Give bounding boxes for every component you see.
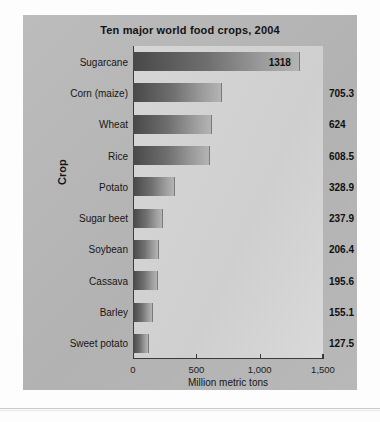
x-axis-tick bbox=[133, 354, 134, 359]
category-label: Sugarcane bbox=[80, 56, 128, 67]
bar-value-label: 155.1 bbox=[329, 307, 354, 318]
category-label: Potato bbox=[99, 181, 128, 192]
x-axis-tick-label: 1,000 bbox=[248, 364, 272, 375]
chart-figure: Ten major world food crops, 2004 Crop 05… bbox=[0, 0, 380, 422]
x-axis-tick-label: 500 bbox=[188, 364, 204, 375]
bar-row[interactable]: Corn (maize)705.3 bbox=[133, 83, 323, 102]
bar[interactable] bbox=[133, 334, 149, 353]
page-divider bbox=[0, 408, 380, 409]
category-label: Rice bbox=[108, 150, 128, 161]
bar-value-label: 705.3 bbox=[329, 87, 354, 98]
bar-value-label: 328.9 bbox=[329, 181, 354, 192]
bar[interactable] bbox=[133, 146, 210, 165]
bar-row[interactable]: Cassava195.6 bbox=[133, 271, 323, 290]
page-divider-shadow bbox=[0, 410, 380, 411]
category-label: Barley bbox=[100, 307, 128, 318]
bar[interactable] bbox=[133, 115, 212, 134]
category-label: Sugar beet bbox=[79, 213, 128, 224]
chart-title: Ten major world food crops, 2004 bbox=[23, 24, 357, 36]
bar-value-label: 1318 bbox=[269, 56, 291, 67]
bar-value-label: 237.9 bbox=[329, 213, 354, 224]
bar[interactable] bbox=[133, 271, 158, 290]
category-label: Soybean bbox=[89, 244, 128, 255]
category-label: Cassava bbox=[89, 275, 128, 286]
category-label: Wheat bbox=[99, 119, 128, 130]
bar-value-label: 206.4 bbox=[329, 244, 354, 255]
x-axis-line bbox=[133, 358, 323, 359]
bar[interactable]: 1318 bbox=[133, 52, 300, 71]
bar-row[interactable]: Sugarcane1318 bbox=[133, 52, 323, 71]
y-axis-title: Crop bbox=[56, 159, 68, 185]
x-axis-tick-label: 1,500 bbox=[311, 364, 335, 375]
category-label: Corn (maize) bbox=[70, 87, 128, 98]
bar-row[interactable]: Barley155.1 bbox=[133, 303, 323, 322]
bar-value-label: 195.6 bbox=[329, 275, 354, 286]
bar[interactable] bbox=[133, 177, 175, 196]
bar-value-label: 624 bbox=[329, 119, 346, 130]
bar-row[interactable]: Potato328.9 bbox=[133, 177, 323, 196]
bar[interactable] bbox=[133, 303, 153, 322]
bar-row[interactable]: Soybean206.4 bbox=[133, 240, 323, 259]
bar-row[interactable]: Rice608.5 bbox=[133, 146, 323, 165]
x-axis-tick bbox=[196, 354, 197, 359]
bar[interactable] bbox=[133, 240, 159, 259]
x-axis-tick bbox=[323, 354, 324, 359]
bar[interactable] bbox=[133, 209, 163, 228]
bar-value-label: 608.5 bbox=[329, 150, 354, 161]
x-axis-title: Million metric tons bbox=[133, 377, 323, 388]
chart-card: Ten major world food crops, 2004 Crop 05… bbox=[23, 15, 357, 390]
bar-row[interactable]: Sugar beet237.9 bbox=[133, 209, 323, 228]
bar-row[interactable]: Sweet potato127.5 bbox=[133, 334, 323, 353]
plot-area: 05001,0001,500 Sugarcane1318Corn (maize)… bbox=[133, 46, 323, 359]
x-axis-tick bbox=[260, 354, 261, 359]
x-axis-tick-label: 0 bbox=[130, 364, 135, 375]
bar[interactable] bbox=[133, 83, 222, 102]
bar-value-label: 127.5 bbox=[329, 338, 354, 349]
category-label: Sweet potato bbox=[70, 338, 128, 349]
bar-row[interactable]: Wheat624 bbox=[133, 115, 323, 134]
